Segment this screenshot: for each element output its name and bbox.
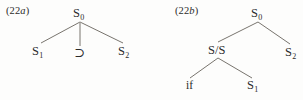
node-22a-root: S0 [73, 7, 84, 20]
node-22b-root: S0 [251, 7, 262, 20]
syntax-tree-figure: (22a) S0 S1 ⊃ S2 (22b) S0 S/S S2 if S1 [0, 0, 303, 100]
tree-22a: (22a) S0 S1 ⊃ S2 [0, 0, 152, 100]
example-label-22a: (22a) [6, 5, 29, 16]
node-22b-terminal-if: if [186, 80, 193, 92]
branch-root-to-s1 [41, 22, 80, 43]
branch-sslash-to-s1 [218, 58, 252, 78]
tree-22b: (22b) S0 S/S S2 if S1 [150, 0, 303, 100]
node-22b-s2: S2 [285, 46, 296, 59]
node-22a-operator-superset: ⊃ [74, 46, 85, 59]
branch-root-to-s2 [258, 22, 290, 44]
node-22a-s1: S1 [32, 45, 43, 58]
tree-22b-branches [150, 0, 303, 100]
node-22b-s-slash-s: S/S [208, 44, 225, 57]
branch-root-to-s2 [80, 22, 123, 43]
example-label-22b: (22b) [175, 5, 198, 16]
node-22a-s2: S2 [118, 45, 129, 58]
node-22b-terminal-s1: S1 [247, 79, 258, 92]
branch-root-to-sslash [218, 22, 258, 42]
branch-sslash-to-if [190, 58, 218, 78]
